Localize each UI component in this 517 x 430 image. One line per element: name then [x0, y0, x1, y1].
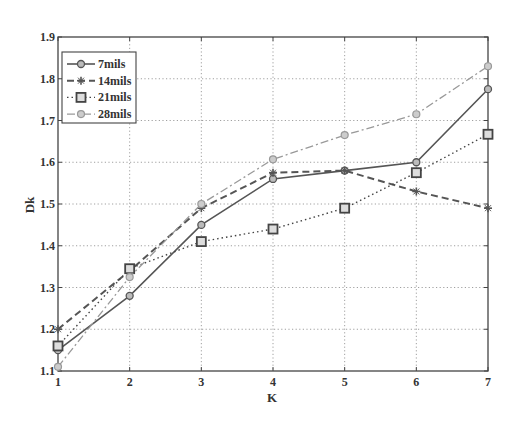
series-14mils-marker [341, 167, 349, 175]
y-tick-label: 1.9 [40, 30, 55, 44]
y-tick-label: 1.7 [40, 114, 55, 128]
x-tick-label: 3 [198, 375, 204, 389]
series-7mils [55, 86, 492, 354]
legend-21mils-marker [77, 93, 86, 102]
y-tick-label: 1.8 [40, 72, 55, 86]
series-7mils-marker [126, 292, 133, 299]
series-21mils-marker [197, 237, 206, 246]
series-21mils-marker [484, 130, 493, 139]
x-tick-label: 1 [55, 375, 61, 389]
legend-label: 14mils [98, 74, 132, 88]
series-28mils-marker [55, 363, 62, 370]
legend-label: 21mils [98, 90, 132, 104]
series-21mils-marker [340, 204, 349, 213]
series-28mils-marker [198, 201, 205, 208]
series-28mils-marker [270, 156, 277, 163]
legend-28mils-marker [78, 111, 85, 118]
series-28mils-marker [485, 63, 492, 70]
x-tick-label: 2 [127, 375, 133, 389]
y-tick-label: 1.1 [40, 364, 55, 378]
series-7mils-marker [198, 221, 205, 228]
x-axis-label: K [267, 390, 278, 405]
series-28mils-marker [341, 132, 348, 139]
series-21mils-marker [125, 264, 134, 273]
legend-14mils-marker [77, 77, 85, 85]
y-tick-label: 1.3 [40, 281, 55, 295]
series-7mils-marker [485, 86, 492, 93]
series-21mils-marker [269, 225, 278, 234]
legend: 7mils14mils21mils28mils [62, 52, 136, 123]
series-28mils-marker [126, 274, 133, 281]
y-axis-label: Dk [22, 196, 37, 213]
x-tick-label: 7 [485, 375, 491, 389]
series-14mils-marker [269, 169, 277, 177]
series-14mils-marker [484, 204, 492, 212]
series-7mils-marker [413, 159, 420, 166]
y-tick-label: 1.4 [40, 239, 55, 253]
legend-label: 7mils [98, 57, 126, 71]
legend-7mils-marker [78, 61, 85, 68]
y-tick-label: 1.2 [40, 322, 55, 336]
series-14mils-marker [412, 187, 420, 195]
y-tick-label: 1.5 [40, 197, 55, 211]
line-chart: 12345671.11.21.31.41.51.61.71.81.9 K Dk … [0, 0, 517, 430]
legend-label: 28mils [98, 107, 132, 121]
x-tick-label: 5 [342, 375, 348, 389]
series-21mils-marker [54, 341, 63, 350]
series-14mils-marker [54, 325, 62, 333]
x-tick-label: 6 [413, 375, 419, 389]
y-tick-label: 1.6 [40, 155, 55, 169]
legend-item-21mils: 21mils [67, 90, 132, 104]
series-21mils-marker [412, 168, 421, 177]
series-28mils-marker [413, 111, 420, 118]
x-tick-label: 4 [270, 375, 276, 389]
